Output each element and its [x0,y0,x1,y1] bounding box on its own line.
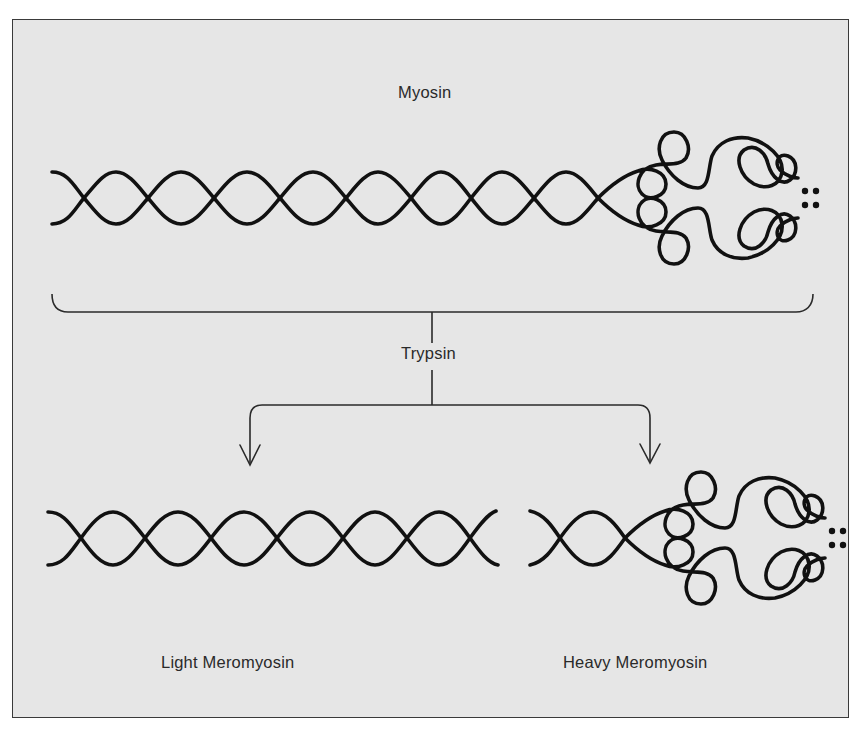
heavy-meromyosin-helix [530,511,625,565]
myosin-tail-helix [52,172,598,224]
heavy-meromyosin-label: Heavy Meromyosin [563,653,707,672]
myosin-globular-head [598,132,819,264]
trypsin-label: Trypsin [399,344,458,363]
light-meromyosin-helix [48,511,498,565]
heavy-meromyosin-globular-head [625,472,846,604]
light-meromyosin-label: Light Meromyosin [161,653,294,672]
myosin-molecule [52,132,819,264]
myosin-cleavage-diagram [0,0,865,731]
cleavage-bracket [52,294,813,463]
myosin-label: Myosin [398,83,451,102]
heavy-meromyosin [530,472,846,604]
